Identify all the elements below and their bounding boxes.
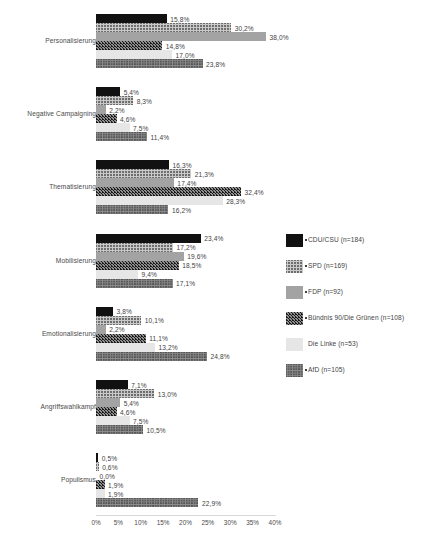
bar-value-label: 23,8% — [206, 60, 225, 67]
bar-cdu-csu — [96, 234, 201, 243]
category-group-2: Negative Campaigning5,4%8,3%2,2%4,6%7,5%… — [0, 87, 436, 141]
category-group-3: Thematisierung16,3%21,3%17,4%32,4%28,3%1… — [0, 160, 436, 214]
legend-label: Die Linke (n=53) — [308, 340, 358, 347]
bar-die-linke — [96, 343, 155, 352]
bar-die-linke — [96, 123, 130, 132]
bar-row: 4,6% — [96, 114, 396, 123]
bar-value-label: 32,4% — [244, 188, 263, 195]
bar-value-label: 5,4% — [124, 88, 139, 95]
bar-buendnis90-die-gruenen — [96, 114, 117, 123]
legend-item-die-linke[interactable]: Die Linke (n=53) — [286, 336, 436, 362]
legend-item-afd[interactable]: AfD (n=105) — [286, 362, 436, 388]
bar-row: 21,3% — [96, 169, 396, 178]
bar-fdp — [96, 398, 120, 407]
bar-spd — [96, 316, 141, 325]
category-label-text: Negative Campaigning — [8, 110, 96, 117]
bar-row: 23,8% — [96, 59, 396, 68]
bar-row: 38,0% — [96, 32, 396, 41]
bar-buendnis90-die-gruenen — [96, 407, 117, 416]
x-tick-label: 15% — [157, 519, 170, 526]
bar-row: 17,4% — [96, 178, 396, 187]
bar-value-label: 17,0% — [176, 51, 195, 58]
legend-label: AfD (n=105) — [308, 366, 345, 373]
bar-row: 0,0% — [96, 471, 396, 480]
bar-afd — [96, 425, 143, 434]
bar-cdu-csu — [96, 14, 167, 23]
legend: CDU/CSU (n=184)SPD (n=169)FDP (n=92)Bünd… — [286, 232, 436, 388]
bar-fdp — [96, 252, 184, 261]
bar-value-label: 14,8% — [166, 42, 185, 49]
x-axis: 0%5%10%15%20%25%30%35%40% — [0, 519, 436, 539]
x-tick-label: 5% — [114, 519, 123, 526]
bar-value-label: 2,2% — [109, 106, 124, 113]
bar-spd — [96, 96, 133, 105]
bar-value-label: 11,1% — [149, 335, 168, 342]
bar-value-label: 24,8% — [210, 353, 229, 360]
bar-value-label: 10,5% — [146, 426, 165, 433]
bar-afd — [96, 132, 147, 141]
bar-value-label: 5,4% — [124, 399, 139, 406]
legend-item-cdu-csu[interactable]: CDU/CSU (n=184) — [286, 232, 436, 258]
bar-afd — [96, 279, 173, 288]
bar-value-label: 2,2% — [109, 326, 124, 333]
bar-fdp — [96, 32, 266, 41]
bar-afd — [96, 352, 207, 361]
x-tick-label: 25% — [201, 519, 214, 526]
bar-row: 11,4% — [96, 132, 396, 141]
bar-chart: Personalisierung15,8%30,2%38,0%14,8%17,0… — [0, 0, 436, 547]
bar-value-label: 28,3% — [226, 197, 245, 204]
bar-value-label: 16,3% — [172, 161, 191, 168]
bar-row: 0,6% — [96, 462, 396, 471]
bar-value-label: 38,0% — [270, 33, 289, 40]
x-tick-label: 20% — [179, 519, 192, 526]
legend-swatch-icon — [286, 312, 303, 325]
bar-cdu-csu — [96, 87, 120, 96]
bar-row: 30,2% — [96, 23, 396, 32]
bar-value-label: 13,0% — [158, 390, 177, 397]
bar-afd — [96, 205, 168, 214]
bar-spd — [96, 169, 191, 178]
bar-fdp — [96, 105, 106, 114]
legend-item-buendnis90-die-gruenen[interactable]: Bündnis 90/Die Grünen (n=108) — [286, 310, 436, 336]
bar-value-label: 10,1% — [145, 317, 164, 324]
legend-swatch-icon — [286, 338, 303, 351]
bar-row: 22,9% — [96, 498, 396, 507]
legend-item-spd[interactable]: SPD (n=169) — [286, 258, 436, 284]
bar-value-label: 3,8% — [117, 308, 132, 315]
bar-value-label: 21,3% — [195, 170, 214, 177]
x-axis-line — [96, 515, 276, 516]
category-label-text: Emotionalisierung — [8, 330, 96, 337]
bar-value-label: 17,2% — [176, 244, 195, 251]
bar-row: 1,9% — [96, 480, 396, 489]
legend-item-fdp[interactable]: FDP (n=92) — [286, 284, 436, 310]
bar-spd — [96, 389, 154, 398]
bar-value-label: 0,0% — [100, 472, 115, 479]
bar-value-label: 1,9% — [108, 481, 123, 488]
bar-fdp — [96, 325, 106, 334]
category-group-6: Angriffswahlkampf7,1%13,0%5,4%4,6%7,5%10… — [0, 380, 436, 434]
bar-value-label: 19,6% — [187, 253, 206, 260]
legend-swatch-icon — [286, 260, 303, 273]
bar-fdp — [96, 178, 174, 187]
bar-value-label: 22,9% — [202, 499, 221, 506]
bar-row: 2,2% — [96, 105, 396, 114]
bar-value-label: 4,6% — [120, 115, 135, 122]
bar-row: 17,0% — [96, 50, 396, 59]
bar-value-label: 16,2% — [172, 206, 191, 213]
bar-row: 16,2% — [96, 205, 396, 214]
bar-value-label: 7,5% — [133, 124, 148, 131]
bar-buendnis90-die-gruenen — [96, 480, 105, 489]
category-group-1: Personalisierung15,8%30,2%38,0%14,8%17,0… — [0, 14, 436, 68]
bar-value-label: 0,6% — [102, 463, 117, 470]
bar-value-label: 9,4% — [142, 271, 157, 278]
legend-swatch-icon — [286, 286, 303, 299]
bar-die-linke — [96, 196, 223, 205]
bar-value-label: 0,5% — [102, 454, 117, 461]
bar-value-label: 17,4% — [177, 179, 196, 186]
bar-value-label: 18,5% — [182, 262, 201, 269]
bar-value-label: 1,9% — [108, 490, 123, 497]
bar-row: 0,5% — [96, 453, 396, 462]
bar-buendnis90-die-gruenen — [96, 41, 162, 50]
bar-cdu-csu — [96, 380, 128, 389]
legend-label: Bündnis 90/Die Grünen (n=108) — [308, 314, 404, 321]
